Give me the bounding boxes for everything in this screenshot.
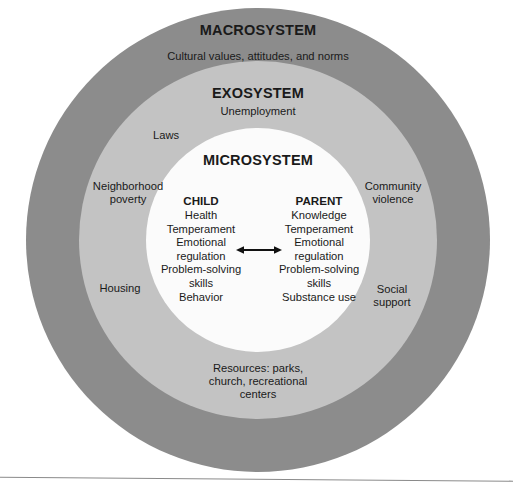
- microsystem-heading: MICROSYSTEM: [203, 152, 313, 169]
- microsystem-parent-heading: PARENT: [296, 194, 343, 207]
- microsystem-child-item-5: Problem-solving: [161, 263, 241, 277]
- macrosystem-heading: MACROSYSTEM: [200, 22, 317, 39]
- double-headed-arrow-icon: [236, 243, 282, 257]
- microsystem-parent-item-6: skills: [307, 277, 331, 291]
- microsystem-parent-item-3: Emotional: [294, 236, 344, 250]
- microsystem-parent-item-7: Substance use: [282, 291, 356, 305]
- exosystem-subtitle: Unemployment: [220, 105, 295, 118]
- exosystem-label-community-violence-line2: violence: [372, 193, 413, 206]
- bottom-divider: [0, 472, 513, 484]
- exosystem-label-neighborhood-poverty-line2: poverty: [110, 193, 147, 206]
- ecological-systems-diagram: MACROSYSTEM Cultural values, attitudes, …: [0, 0, 513, 493]
- exosystem-label-housing: Housing: [99, 282, 140, 295]
- exosystem-label-resources-line1: Resources: parks,: [213, 362, 303, 375]
- exosystem-label-social-support-line1: Social: [377, 283, 407, 296]
- exosystem-label-laws: Laws: [153, 129, 179, 142]
- microsystem-child-item-6: skills: [189, 277, 213, 291]
- exosystem-heading: EXOSYSTEM: [212, 85, 304, 102]
- macrosystem-subtitle: Cultural values, attitudes, and norms: [167, 50, 349, 63]
- exosystem-label-social-support-line2: support: [373, 296, 410, 309]
- exosystem-label-community-violence-line1: Community: [365, 180, 422, 193]
- microsystem-child-item-2: Temperament: [167, 223, 235, 237]
- exosystem-label-neighborhood-poverty-line1: Neighborhood: [93, 180, 163, 193]
- microsystem-child-heading: CHILD: [183, 194, 218, 207]
- microsystem-child-item-4: regulation: [176, 250, 225, 264]
- microsystem-parent-item-1: Knowledge: [291, 209, 346, 223]
- microsystem-parent-item-5: Problem-solving: [279, 263, 359, 277]
- microsystem-child-item-7: Behavior: [179, 291, 223, 305]
- microsystem-child-item-3: Emotional: [176, 236, 226, 250]
- microsystem-parent-item-2: Temperament: [285, 223, 353, 237]
- exosystem-label-resources-line3: centers: [240, 388, 277, 401]
- microsystem-parent-item-4: regulation: [294, 250, 343, 264]
- exosystem-label-resources-line2: church, recreational: [209, 375, 307, 388]
- microsystem-child-item-1: Health: [185, 209, 217, 223]
